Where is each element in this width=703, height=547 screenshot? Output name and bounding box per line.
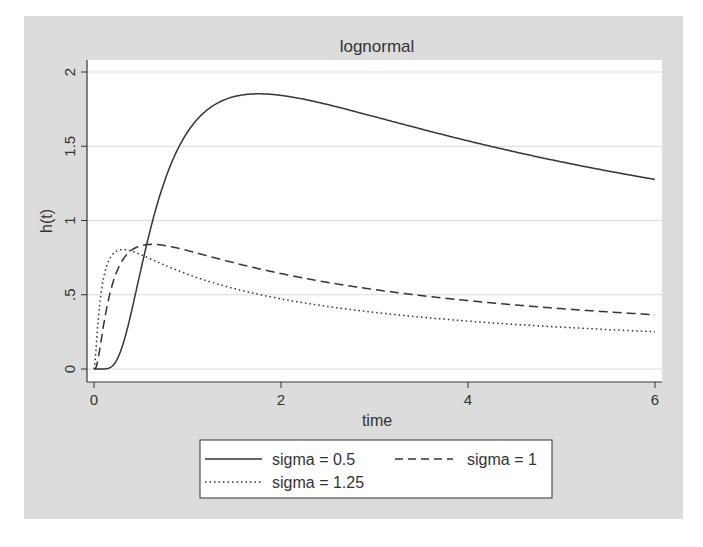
x-tick-label: 4 bbox=[464, 391, 472, 408]
y-tick-label: 1 bbox=[61, 216, 78, 224]
legend-label: sigma = 1.25 bbox=[272, 474, 364, 491]
x-tick-label: 2 bbox=[277, 391, 285, 408]
chart-title: lognormal bbox=[340, 37, 415, 56]
y-tick-label: .5 bbox=[61, 288, 78, 301]
y-tick-label: 2 bbox=[61, 68, 78, 76]
x-axis-title: time bbox=[362, 412, 392, 429]
y-tick-label: 0 bbox=[61, 365, 78, 373]
x-tick-label: 6 bbox=[651, 391, 659, 408]
legend: sigma = 0.5 sigma = 1 sigma = 1.25 bbox=[200, 440, 552, 498]
lognormal-hazard-chart: 0.511.52 0246 lognormal time h(t) sigma … bbox=[0, 0, 703, 547]
x-ticks: 0246 bbox=[90, 382, 659, 408]
y-tick-label: 1.5 bbox=[61, 136, 78, 157]
y-ticks: 0.511.52 bbox=[61, 68, 87, 373]
legend-label: sigma = 1 bbox=[467, 451, 537, 468]
legend-label: sigma = 0.5 bbox=[272, 451, 355, 468]
y-axis-title: h(t) bbox=[38, 209, 55, 233]
x-tick-label: 0 bbox=[90, 391, 98, 408]
